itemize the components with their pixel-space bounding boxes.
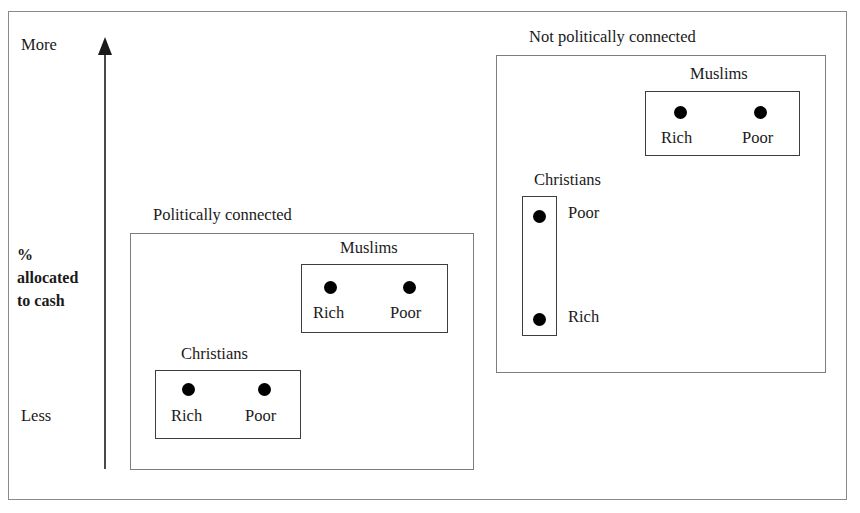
data-point-notconnected-muslims-poor bbox=[754, 106, 767, 119]
y-axis-arrow-icon bbox=[98, 37, 112, 55]
data-label-notconnected-christians-rich: Rich bbox=[568, 307, 599, 327]
data-label-notconnected-christians-poor: Poor bbox=[568, 203, 599, 223]
data-point-connected-muslims-rich bbox=[324, 281, 337, 294]
conceptual-scatter-figure: More % allocated to cash Less Politicall… bbox=[0, 0, 860, 513]
axis-label-metric: % allocated to cash bbox=[17, 243, 78, 313]
cluster-box-connected-christians bbox=[155, 370, 301, 439]
data-label-connected-christians-poor: Poor bbox=[245, 406, 276, 426]
data-label-notconnected-muslims-rich: Rich bbox=[661, 128, 692, 148]
data-point-notconnected-christians-poor bbox=[533, 210, 546, 223]
data-label-notconnected-muslims-poor: Poor bbox=[742, 128, 773, 148]
data-label-connected-muslims-rich: Rich bbox=[313, 303, 344, 323]
data-point-connected-muslims-poor bbox=[403, 281, 416, 294]
cluster-title-notconnected-christians: Christians bbox=[534, 170, 601, 190]
cluster-title-notconnected-muslims: Muslims bbox=[690, 64, 748, 84]
axis-label-less: Less bbox=[21, 406, 51, 427]
cluster-title-connected-christians: Christians bbox=[181, 344, 248, 364]
data-point-notconnected-christians-rich bbox=[533, 313, 546, 326]
data-point-connected-christians-rich bbox=[182, 383, 195, 396]
data-point-connected-christians-poor bbox=[258, 383, 271, 396]
group-title-not-politically-connected: Not politically connected bbox=[529, 27, 696, 47]
cluster-title-connected-muslims: Muslims bbox=[340, 238, 398, 258]
axis-label-more: More bbox=[21, 35, 57, 56]
data-point-notconnected-muslims-rich bbox=[674, 106, 687, 119]
group-title-politically-connected: Politically connected bbox=[153, 205, 292, 225]
data-label-connected-christians-rich: Rich bbox=[171, 406, 202, 426]
data-label-connected-muslims-poor: Poor bbox=[390, 303, 421, 323]
y-axis-line bbox=[104, 52, 106, 469]
